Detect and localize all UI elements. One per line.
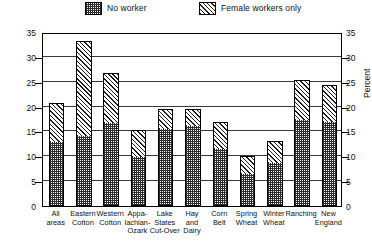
bar-segment-no-worker[interactable]: [131, 157, 147, 206]
bar-segment-no-worker[interactable]: [322, 122, 338, 206]
y-tick-mark-right-15: [342, 132, 349, 133]
y-axis-title-right: Percent: [362, 69, 372, 98]
y-tick-label-left-5: 5: [10, 178, 36, 187]
y-tick-label-left-10: 10: [10, 153, 36, 162]
y-tick-mark-right-10: [342, 157, 349, 158]
legend-swatch-no-worker-icon: [85, 2, 102, 15]
legend-label-female-workers-only: Female workers only: [221, 3, 301, 14]
bar-segment-no-worker[interactable]: [49, 142, 65, 206]
bar-group[interactable]: [240, 156, 256, 206]
bar-segment-no-worker[interactable]: [76, 136, 92, 206]
bar-group[interactable]: [131, 130, 147, 206]
y-tick-label-left-25: 25: [10, 79, 36, 88]
y-tick-mark-left-20: [35, 108, 42, 109]
bar-group[interactable]: [158, 109, 174, 206]
bar-group[interactable]: [294, 80, 310, 206]
bar-segment-female-workers-only[interactable]: [185, 109, 201, 126]
bar-segment-no-worker[interactable]: [185, 126, 201, 206]
bar-segment-female-workers-only[interactable]: [158, 109, 174, 129]
bar-segment-female-workers-only[interactable]: [322, 85, 338, 122]
bar-group[interactable]: [322, 85, 338, 206]
bar-segment-female-workers-only[interactable]: [49, 103, 65, 142]
legend-label-no-worker: No worker: [107, 3, 147, 14]
bar-segment-female-workers-only[interactable]: [267, 141, 283, 162]
y-tick-mark-left-10: [35, 157, 42, 158]
y-tick-label-right-10: 10: [346, 153, 368, 162]
bar-segment-female-workers-only[interactable]: [294, 80, 310, 120]
y-tick-label-left-35: 35: [10, 29, 36, 38]
y-tick-label-left-20: 20: [10, 104, 36, 113]
chart-legend: No worker Female workers only: [0, 2, 369, 20]
y-tick-mark-left-25: [35, 83, 42, 84]
y-tick-mark-left-5: [35, 182, 42, 183]
bar-segment-no-worker[interactable]: [213, 149, 229, 206]
bar-segment-female-workers-only[interactable]: [131, 130, 147, 157]
y-tick-mark-right-30: [342, 58, 349, 59]
y-tick-label-right-0: 0: [346, 203, 368, 212]
y-tick-label-right-35: 35: [346, 29, 368, 38]
y-tick-mark-right-5: [342, 182, 349, 183]
bar-segment-female-workers-only[interactable]: [240, 156, 256, 173]
bar-segment-no-worker[interactable]: [158, 129, 174, 206]
legend-item-no-worker: No worker: [85, 2, 147, 15]
bar-group[interactable]: [49, 103, 65, 206]
bar-group[interactable]: [213, 122, 229, 207]
bar-group[interactable]: [185, 109, 201, 206]
bar-segment-no-worker[interactable]: [103, 123, 119, 206]
bar-segment-no-worker[interactable]: [267, 163, 283, 206]
y-tick-label-left-15: 15: [10, 128, 36, 137]
x-axis-category-labels: AllareasEasternCottonWesternCottonAppa-l…: [42, 210, 342, 248]
bar-group[interactable]: [76, 41, 92, 206]
y-tick-label-right-30: 30: [346, 54, 368, 63]
legend-swatch-female-workers-icon: [199, 2, 216, 15]
y-tick-mark-right-25: [342, 83, 349, 84]
bar-segment-no-worker[interactable]: [240, 174, 256, 206]
y-tick-mark-left-15: [35, 132, 42, 133]
bar-group[interactable]: [267, 141, 283, 206]
legend-item-female-workers-only: Female workers only: [199, 2, 301, 15]
y-tick-label-right-5: 5: [346, 178, 368, 187]
y-tick-mark-right-20: [342, 108, 349, 109]
bar-segment-female-workers-only[interactable]: [213, 122, 229, 149]
y-tick-label-right-20: 20: [346, 104, 368, 113]
y-tick-label-left-30: 30: [10, 54, 36, 63]
y-tick-label-left-0: 0: [10, 203, 36, 212]
y-tick-label-right-15: 15: [346, 128, 368, 137]
y-tick-mark-left-30: [35, 58, 42, 59]
bar-series-group: [43, 34, 341, 206]
bar-group[interactable]: [103, 73, 119, 206]
bar-segment-no-worker[interactable]: [294, 120, 310, 206]
x-axis-label: NewEngland: [310, 210, 347, 227]
bar-segment-female-workers-only[interactable]: [76, 41, 92, 136]
bar-segment-female-workers-only[interactable]: [103, 73, 119, 123]
plot-area: [42, 33, 342, 207]
